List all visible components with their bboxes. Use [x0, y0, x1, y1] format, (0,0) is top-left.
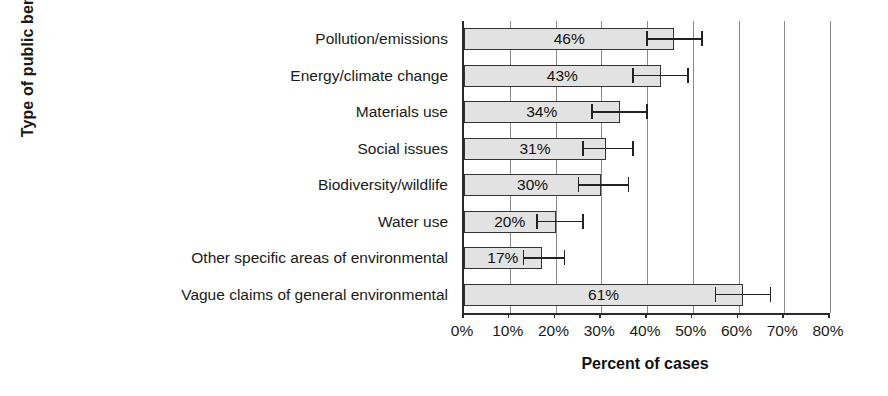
error-bar-cap-high [770, 287, 772, 302]
error-bar-line [592, 111, 647, 113]
bar-row[interactable]: 61% [464, 284, 830, 306]
error-bar-line [583, 148, 633, 150]
x-tick-mark [599, 313, 601, 318]
bar[interactable] [464, 284, 743, 306]
category-label: Biodiversity/wildlife [318, 174, 448, 196]
error-bar-line [633, 75, 688, 77]
error-bar-cap-high [564, 250, 566, 265]
bar-row[interactable]: 20% [464, 211, 830, 233]
bar-row[interactable]: 43% [464, 65, 830, 87]
x-tick-mark [737, 313, 739, 318]
x-tick-mark [828, 313, 830, 318]
x-axis-tick-marks [462, 313, 830, 319]
error-bar-cap-low [582, 141, 584, 156]
error-bar-cap-low [578, 177, 580, 192]
bar-row[interactable]: 46% [464, 28, 830, 50]
x-tick-mark [554, 313, 556, 318]
error-bar-line [647, 38, 702, 40]
error-bar-cap-low [646, 31, 648, 46]
bar-row[interactable]: 30% [464, 174, 830, 196]
x-axis-title: Percent of cases [462, 355, 828, 373]
error-bar-cap-high [701, 31, 703, 46]
error-bar-cap-high [628, 177, 630, 192]
category-label: Pollution/emissions [315, 28, 448, 50]
error-bar-line [537, 221, 583, 223]
error-bar-cap-low [632, 68, 634, 83]
error-bar-cap-low [591, 104, 593, 119]
bar-row[interactable]: 34% [464, 101, 830, 123]
x-tick-mark [691, 313, 693, 318]
x-tick-mark [508, 313, 510, 318]
error-bar-cap-low [715, 287, 717, 302]
category-label: Water use [378, 211, 448, 233]
category-label: Energy/climate change [290, 65, 448, 87]
x-tick-label: 80% [800, 322, 856, 340]
category-label: Other specific areas of environmental [191, 247, 448, 269]
category-label-column: Pollution/emissionsEnergy/climate change… [56, 21, 456, 313]
error-bar-cap-high [632, 141, 634, 156]
x-axis-tick-labels: 0%10%20%30%40%50%60%70%80% [400, 322, 888, 344]
error-bar-line [578, 184, 628, 186]
bar[interactable] [464, 65, 661, 87]
bar-row[interactable]: 17% [464, 247, 830, 269]
x-tick-mark [645, 313, 647, 318]
bar-row[interactable]: 31% [464, 138, 830, 160]
bar-chart-figure: Type of public benefit Pollution/emissio… [0, 0, 888, 396]
error-bar-line [716, 294, 771, 296]
error-bar-cap-high [687, 68, 689, 83]
y-axis-title: Type of public benefit [10, 0, 46, 204]
error-bar-cap-low [536, 214, 538, 229]
category-label: Materials use [356, 101, 448, 123]
error-bar-cap-low [523, 250, 525, 265]
category-label: Social issues [358, 138, 448, 160]
error-bar-cap-high [582, 214, 584, 229]
category-label: Vague claims of general environmental [181, 284, 448, 306]
error-bar-cap-high [646, 104, 648, 119]
error-bar-line [523, 257, 564, 259]
x-tick-mark [782, 313, 784, 318]
bar[interactable] [464, 28, 674, 50]
plot-area: 46%43%34%31%30%20%17%61% [462, 21, 830, 315]
x-tick-mark [462, 313, 464, 318]
gridline-80 [830, 21, 831, 313]
